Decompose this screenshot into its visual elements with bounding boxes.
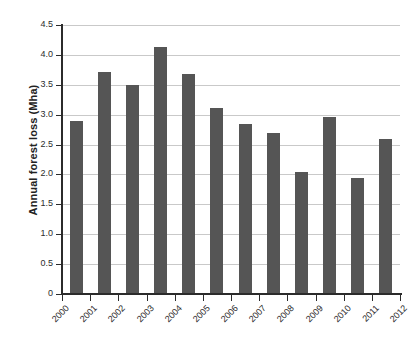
bar-slot: [203, 25, 231, 294]
bar[interactable]: [70, 121, 83, 294]
y-axis-tick-label: 1.0: [26, 229, 53, 238]
y-axis-tick-label-wrap: 0: [26, 289, 53, 298]
y-axis-tick-label: 2.0: [26, 169, 53, 178]
x-axis-tick-label: 2000: [41, 303, 71, 333]
bar-slot: [316, 25, 344, 294]
y-axis-tick-label-wrap: 3.0: [26, 110, 53, 119]
bar-slot: [118, 25, 146, 294]
y-axis-tick-label-wrap: 1.0: [26, 229, 53, 238]
y-axis-tick-label: 0.5: [26, 259, 53, 268]
x-axis-tick-label: 2009: [295, 303, 325, 333]
x-axis-tick: [175, 295, 176, 301]
y-axis-title: Annual forest loss (Mha): [22, 0, 44, 300]
x-axis-tick-label: 2005: [182, 303, 212, 333]
y-axis-tick-label-wrap: 3.5: [26, 80, 53, 89]
x-axis-tick-label: 2008: [267, 303, 297, 333]
x-axis-tick: [372, 295, 373, 301]
bar-slot: [372, 25, 400, 294]
bar-slot: [147, 25, 175, 294]
y-axis-tick-label: 0: [26, 289, 53, 298]
bar[interactable]: [98, 72, 111, 294]
y-axis-tick-label-wrap: 4.5: [26, 20, 53, 29]
plot-area: [62, 25, 400, 294]
bar[interactable]: [239, 124, 252, 294]
bar-slot: [62, 25, 90, 294]
x-axis-tick: [259, 295, 260, 301]
y-axis-tick-label-wrap: 4.0: [26, 50, 53, 59]
y-axis-tick-label-wrap: 0.5: [26, 259, 53, 268]
x-axis-tick: [147, 295, 148, 301]
y-axis-tick-label: 4.5: [26, 20, 53, 29]
bar[interactable]: [267, 133, 280, 294]
y-axis-tick-label: 1.5: [26, 199, 53, 208]
bar-slot: [175, 25, 203, 294]
bar[interactable]: [154, 47, 167, 294]
x-axis-tick-label: 2012: [379, 303, 409, 333]
x-axis-tick: [316, 295, 317, 301]
x-axis-tick-label: 2004: [154, 303, 184, 333]
y-axis-tick-label-wrap: 2.0: [26, 169, 53, 178]
x-axis-tick-label: 2003: [126, 303, 156, 333]
y-axis-tick-label: 4.0: [26, 50, 53, 59]
y-axis-line: [61, 24, 63, 295]
y-axis-tick-label: 3.5: [26, 80, 53, 89]
bar[interactable]: [295, 172, 308, 294]
x-axis-tick-label: 2011: [351, 303, 381, 333]
bar[interactable]: [351, 178, 364, 294]
y-axis-tick-label-wrap: 1.5: [26, 199, 53, 208]
x-axis-tick: [344, 295, 345, 301]
x-axis-tick: [287, 295, 288, 301]
bar-slot: [344, 25, 372, 294]
x-axis-tick: [231, 295, 232, 301]
x-axis-tick: [90, 295, 91, 301]
x-axis-tick-label: 2007: [239, 303, 269, 333]
y-axis-tick-label: 2.5: [26, 140, 53, 149]
x-axis-tick-label: 2006: [210, 303, 240, 333]
bar-slot: [259, 25, 287, 294]
bar[interactable]: [379, 139, 392, 294]
x-axis-tick: [62, 295, 63, 301]
bar-slot: [90, 25, 118, 294]
x-axis-tick-label: 2001: [70, 303, 100, 333]
bar[interactable]: [210, 108, 223, 295]
x-axis-tick: [400, 295, 401, 301]
bar-chart: Annual forest loss (Mha) 00.51.01.52.02.…: [0, 0, 418, 339]
bar[interactable]: [323, 117, 336, 294]
bar-slot: [287, 25, 315, 294]
bar-slot: [231, 25, 259, 294]
y-axis-tick-label: 3.0: [26, 110, 53, 119]
bars-layer: [62, 25, 400, 294]
x-axis-tick: [203, 295, 204, 301]
y-axis-tick-label-wrap: 2.5: [26, 140, 53, 149]
bar[interactable]: [126, 85, 139, 294]
x-axis-tick-label: 2002: [98, 303, 128, 333]
bar[interactable]: [182, 74, 195, 294]
x-axis-tick: [118, 295, 119, 301]
x-axis-tick-label: 2010: [323, 303, 353, 333]
